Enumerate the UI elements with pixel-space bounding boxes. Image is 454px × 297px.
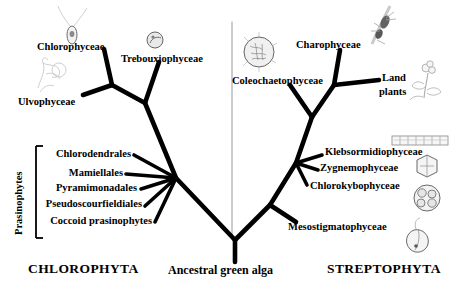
clade-label-streptophyta: STREPTOPHYTA xyxy=(327,262,441,276)
phylogenetic-tree-figure: Chlorophyceae Trebouxiophyceae Ulvophyce… xyxy=(0,0,454,297)
label-chlorokybophyceae: Chlorokybophyceae xyxy=(310,181,400,192)
prasinophytes-bracket-label: Prasinophytes xyxy=(14,171,25,235)
label-coleochaetophyceae: Coleochaetophyceae xyxy=(232,76,323,87)
label-mesostigmatophyceae: Mesostigmatophyceae xyxy=(288,222,387,233)
label-charophyceae: Charophyceae xyxy=(296,40,361,51)
chlorokybophyceae-icon xyxy=(414,185,440,211)
zygnemophyceae-icon xyxy=(417,155,437,177)
label-klebsormidiophyceae: Klebsormidiophyceae xyxy=(325,147,422,158)
klebsormidiophyceae-icon xyxy=(392,136,448,145)
root-label: Ancestral green alga xyxy=(168,264,273,276)
label-zygnemophyceae: Zygnemophyceae xyxy=(320,163,398,174)
chlorophyceae-icon xyxy=(58,6,87,44)
mesostigmatophyceae-icon xyxy=(407,218,429,252)
label-ulvophyceae: Ulvophyceae xyxy=(18,97,75,108)
label-chlorodendrales: Chlorodendrales xyxy=(0,149,131,160)
label-chlorophyceae: Chlorophyceae xyxy=(37,42,104,53)
label-trebouxiophyceae: Trebouxiophyceae xyxy=(121,54,203,65)
land-plants-icon xyxy=(410,61,441,100)
label-land-plants-line1: Land xyxy=(382,73,406,84)
ulvophyceae-icon xyxy=(38,58,66,92)
label-land-plants-line2: plants xyxy=(379,87,406,98)
charophyceae-icon xyxy=(371,6,396,44)
coleochaetophyceae-icon xyxy=(243,32,277,72)
clade-label-chlorophyta: CHLOROPHYTA xyxy=(28,262,139,276)
trebouxiophyceae-icon xyxy=(147,32,163,48)
